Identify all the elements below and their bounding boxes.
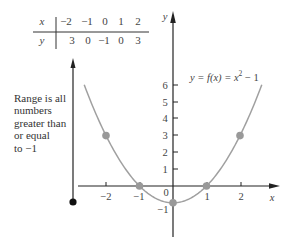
x-axis-arrow-icon xyxy=(269,183,280,189)
table-y-cell: −1 xyxy=(98,34,110,46)
y-axis-label: y xyxy=(162,11,168,22)
origin-label: 0 xyxy=(163,187,168,198)
y-tick-label: 3 xyxy=(162,130,167,141)
y-tick-label: −1 xyxy=(157,204,168,215)
range-note-line: Range is all xyxy=(14,92,84,104)
x-tick-label: 2 xyxy=(238,191,243,202)
data-point xyxy=(236,132,244,140)
table-x-cell: 1 xyxy=(118,15,124,27)
table-y-label: y xyxy=(39,34,45,46)
data-point xyxy=(102,132,110,140)
table-x-cell: 0 xyxy=(102,15,108,27)
range-note: Range is all numbers greater than or equ… xyxy=(14,92,84,154)
table-x-cell: −2 xyxy=(60,15,72,27)
x-tick-label: −2 xyxy=(100,191,111,202)
x-tick-label: 1 xyxy=(204,191,209,202)
value-table: x y −2 −1 0 1 2 3 0 −1 0 3 xyxy=(33,15,149,49)
table-x-label: x xyxy=(39,15,45,27)
y-axis-arrow-icon xyxy=(170,11,176,23)
table-y-cell: 3 xyxy=(69,34,75,46)
table-y-cell: 0 xyxy=(118,34,124,46)
table-y-cell: 3 xyxy=(135,34,141,46)
data-point xyxy=(136,182,144,190)
range-note-line: greater than xyxy=(14,117,84,129)
x-tick-label: −1 xyxy=(133,191,144,202)
function-label: y = f(x) = x2 − 1 xyxy=(189,69,259,84)
y-tick-label: 5 xyxy=(162,97,167,108)
range-note-line: numbers xyxy=(14,104,84,116)
y-tick-label: 6 xyxy=(162,80,167,91)
range-note-line: to −1 xyxy=(14,142,84,154)
y-tick-label: 2 xyxy=(162,147,167,158)
range-arrow-up-icon xyxy=(71,58,76,68)
table-y-cell: 0 xyxy=(85,34,91,46)
table-x-cell: −1 xyxy=(81,15,93,27)
data-point xyxy=(169,199,177,207)
data-point xyxy=(203,182,211,190)
table-x-cell: 2 xyxy=(135,15,141,27)
y-tick-label: 1 xyxy=(162,164,167,175)
x-axis-label: x xyxy=(269,192,275,203)
range-start-dot xyxy=(69,198,76,205)
range-note-line: or equal xyxy=(14,129,84,141)
y-tick-label: 4 xyxy=(162,113,168,124)
